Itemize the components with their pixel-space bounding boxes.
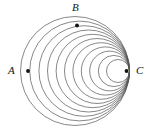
- circle-3: [39, 26, 130, 117]
- geometry-figure: A B C: [0, 0, 151, 136]
- circle-4: [48, 30, 130, 112]
- point-label-b: B: [72, 2, 79, 13]
- circle-1-outer: [21, 17, 130, 126]
- point-label-a: A: [8, 65, 15, 76]
- circle-8: [81, 47, 129, 95]
- circle-2: [30, 21, 130, 121]
- point-marker-b: [75, 24, 79, 28]
- point-marker-a: [26, 69, 30, 73]
- point-marker-c: [125, 69, 129, 73]
- circle-5: [56, 34, 129, 107]
- concentric-tangent-circles: [21, 17, 130, 126]
- circles-diagram-svg: [0, 0, 151, 136]
- point-label-c: C: [136, 65, 143, 76]
- circle-9: [90, 51, 130, 91]
